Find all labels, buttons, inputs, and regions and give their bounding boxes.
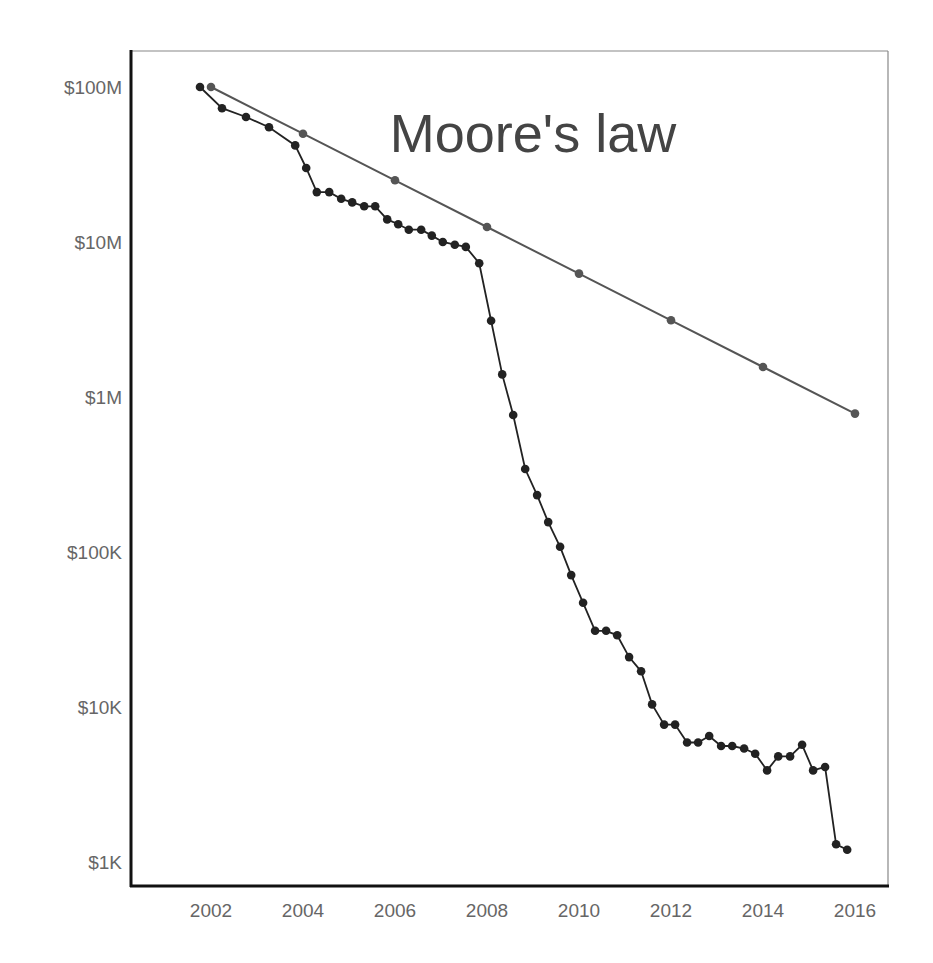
y-axis-ticks: $100M$10M$1M$100K$10K$1K xyxy=(64,77,122,873)
series-actual-cost xyxy=(196,83,852,854)
data-point-actual-cost xyxy=(637,667,646,676)
data-point-actual-cost xyxy=(302,164,311,173)
data-point-actual-cost xyxy=(602,627,611,636)
data-point-actual-cost xyxy=(439,238,448,247)
y-tick-label: $100K xyxy=(67,542,122,563)
data-point-actual-cost xyxy=(521,465,530,474)
data-point-actual-cost xyxy=(774,752,783,761)
series-layer xyxy=(196,83,860,854)
x-tick-label: 2016 xyxy=(834,900,876,921)
data-point-actual-cost xyxy=(428,231,437,240)
data-point-moore-s-law xyxy=(575,269,584,278)
data-point-actual-cost xyxy=(509,411,518,420)
x-tick-label: 2004 xyxy=(282,900,325,921)
data-point-moore-s-law xyxy=(207,83,216,92)
chart-title: Moore's law xyxy=(390,103,677,163)
data-point-actual-cost xyxy=(751,749,760,758)
data-point-actual-cost xyxy=(613,631,622,640)
data-point-actual-cost xyxy=(660,720,669,729)
data-point-actual-cost xyxy=(291,141,300,150)
data-point-actual-cost xyxy=(265,123,274,132)
data-point-actual-cost xyxy=(567,571,576,580)
data-point-actual-cost xyxy=(218,104,227,113)
x-tick-label: 2010 xyxy=(558,900,600,921)
chart: Moore's law $100M$10M$1M$100K$10K$1K 200… xyxy=(0,0,933,963)
x-tick-label: 2014 xyxy=(742,900,785,921)
data-point-actual-cost xyxy=(360,202,369,211)
data-point-actual-cost xyxy=(843,845,852,854)
data-point-actual-cost xyxy=(405,225,414,234)
data-point-actual-cost xyxy=(196,83,205,92)
data-point-actual-cost xyxy=(487,317,496,326)
data-point-moore-s-law xyxy=(759,363,768,372)
data-point-actual-cost xyxy=(728,742,737,751)
data-point-actual-cost xyxy=(705,732,714,741)
data-point-moore-s-law xyxy=(851,409,860,418)
data-point-actual-cost xyxy=(383,215,392,224)
data-point-actual-cost xyxy=(832,840,841,849)
data-point-actual-cost xyxy=(533,491,542,500)
data-point-actual-cost xyxy=(451,240,460,249)
data-point-moore-s-law xyxy=(667,316,676,325)
data-point-actual-cost xyxy=(740,744,749,753)
data-point-actual-cost xyxy=(809,766,818,775)
data-point-actual-cost xyxy=(544,518,553,527)
data-point-actual-cost xyxy=(371,202,380,211)
data-point-actual-cost xyxy=(325,188,334,197)
data-point-actual-cost xyxy=(798,741,807,750)
x-tick-label: 2012 xyxy=(650,900,692,921)
data-point-actual-cost xyxy=(394,220,403,229)
x-axis-ticks: 20022004200620082010201220142016 xyxy=(190,900,876,921)
data-point-moore-s-law xyxy=(391,176,400,185)
data-point-actual-cost xyxy=(786,752,795,761)
data-point-actual-cost xyxy=(683,738,692,747)
data-point-actual-cost xyxy=(591,627,600,636)
x-tick-label: 2002 xyxy=(190,900,232,921)
x-tick-label: 2006 xyxy=(374,900,416,921)
data-point-actual-cost xyxy=(579,599,588,608)
data-point-actual-cost xyxy=(648,700,657,709)
data-point-actual-cost xyxy=(671,720,680,729)
data-point-actual-cost xyxy=(556,543,565,552)
data-point-actual-cost xyxy=(313,188,322,197)
data-point-actual-cost xyxy=(417,225,426,234)
data-point-actual-cost xyxy=(717,742,726,751)
data-point-actual-cost xyxy=(337,195,346,204)
data-point-actual-cost xyxy=(763,766,772,775)
data-point-actual-cost xyxy=(475,259,484,268)
data-point-actual-cost xyxy=(694,738,703,747)
data-point-actual-cost xyxy=(462,243,471,252)
data-point-actual-cost xyxy=(625,653,634,662)
data-point-moore-s-law xyxy=(483,223,492,232)
y-tick-label: $100M xyxy=(64,77,122,98)
data-point-actual-cost xyxy=(242,113,251,122)
data-point-moore-s-law xyxy=(299,129,308,138)
y-tick-label: $1K xyxy=(88,852,122,873)
data-point-actual-cost xyxy=(821,763,830,772)
data-point-actual-cost xyxy=(498,370,507,379)
y-tick-label: $10K xyxy=(78,697,123,718)
y-tick-label: $10M xyxy=(74,232,122,253)
data-point-actual-cost xyxy=(348,198,357,207)
y-tick-label: $1M xyxy=(85,387,122,408)
x-tick-label: 2008 xyxy=(466,900,508,921)
